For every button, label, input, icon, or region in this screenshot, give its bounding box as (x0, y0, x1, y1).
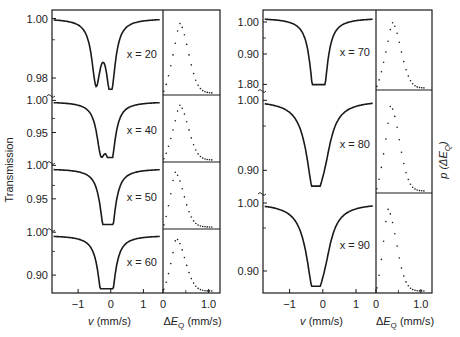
y-tick-label: 1.00 (238, 197, 259, 209)
distribution-point (387, 209, 389, 211)
distribution-point (414, 188, 416, 190)
y-tick-label: 0.95 (27, 193, 48, 205)
mossbauer-figure: 1.000.98x = 201.000.95x = 401.000.95x = … (0, 0, 460, 337)
distribution-point (186, 44, 188, 46)
distribution-point (390, 29, 392, 31)
distribution-point (191, 64, 193, 66)
distribution-point (381, 167, 383, 169)
distribution-point (200, 88, 202, 90)
distribution-point (188, 211, 190, 213)
distribution-point (399, 257, 401, 259)
distribution-point (186, 265, 188, 267)
x-tick-label: 1.0 (201, 298, 216, 310)
distribution-point (186, 204, 188, 206)
distribution-point (410, 183, 412, 185)
distribution-point (179, 105, 181, 107)
distribution-point (419, 87, 421, 89)
distribution-point (193, 282, 195, 284)
y-tick-label: 0.90 (27, 269, 48, 281)
distribution-point (396, 245, 398, 247)
composition-label: x = 80 (340, 138, 370, 150)
y-tick-label: 1.00 (27, 226, 48, 238)
distribution-point (168, 146, 170, 148)
distribution-point (170, 263, 172, 265)
distribution-point (399, 139, 401, 141)
axis-break-icon (258, 90, 266, 93)
distribution-point (419, 190, 421, 192)
distribution-point (421, 190, 423, 192)
distribution-point (405, 69, 407, 71)
distribution-point (378, 179, 380, 181)
distribution-point (184, 196, 186, 198)
axis-break-icon (47, 162, 55, 165)
distribution-point (168, 75, 170, 77)
distribution-point (165, 84, 167, 86)
distribution-point (423, 87, 425, 89)
distribution-point (421, 87, 423, 89)
distribution-point (412, 187, 414, 189)
distribution-point (405, 172, 407, 174)
y-axis-label-transmission: Transmission (3, 138, 15, 203)
distribution-point (412, 83, 414, 85)
distribution-point (408, 285, 410, 287)
distribution-point (403, 275, 405, 277)
distribution-point (175, 43, 177, 45)
y-tick-label: 1.00 (238, 16, 259, 28)
distribution-point (394, 233, 396, 235)
distribution-point (177, 239, 179, 241)
y-tick-label: 0.90 (238, 48, 259, 60)
distribution-point (202, 90, 204, 92)
axis-break-icon (47, 95, 55, 98)
distribution-point (383, 62, 385, 64)
distribution-point (175, 240, 177, 242)
distribution-point (204, 290, 206, 292)
distribution-point (383, 153, 385, 155)
x-tick-label: 0 (373, 298, 379, 310)
distribution-point (181, 108, 183, 110)
composition-label: x = 50 (127, 191, 157, 203)
distribution-point (392, 108, 394, 110)
axis-break-icon (258, 193, 266, 196)
y-tick-label: 1.00 (27, 159, 48, 171)
distribution-point (197, 224, 199, 226)
distribution-point (396, 126, 398, 128)
distribution-point (193, 220, 195, 222)
distribution-point (200, 156, 202, 158)
distribution-point (399, 41, 401, 43)
distribution-point (188, 54, 190, 56)
distribution-point (197, 85, 199, 87)
distribution-point (191, 216, 193, 218)
y-tick-label: 1.00 (27, 94, 48, 106)
distribution-point (206, 92, 208, 94)
distribution-point (209, 159, 211, 161)
distribution-point (390, 213, 392, 215)
distribution-point (209, 226, 211, 228)
distribution-point (383, 241, 385, 243)
distribution-point (387, 123, 389, 125)
distribution-point (204, 158, 206, 160)
distribution-point (412, 289, 414, 291)
distribution-point (394, 26, 396, 28)
distribution-point (416, 86, 418, 88)
distribution-point (408, 179, 410, 181)
distribution-point (211, 92, 213, 94)
distribution-point (184, 113, 186, 115)
distribution-point (403, 61, 405, 63)
distribution-point (172, 252, 174, 254)
distribution-point (179, 243, 181, 245)
distribution-point (202, 157, 204, 159)
distribution-point (200, 225, 202, 227)
distribution-point (414, 290, 416, 292)
x-tick-label: −1 (283, 298, 296, 310)
distribution-point (184, 34, 186, 36)
distribution-point (392, 22, 394, 24)
distribution-point (191, 278, 193, 280)
distribution-point (179, 180, 181, 182)
distribution-point (186, 121, 188, 123)
composition-label: x = 40 (127, 124, 157, 136)
distribution-point (181, 27, 183, 29)
distribution-point (168, 273, 170, 275)
distribution-point (188, 129, 190, 131)
distribution-point (401, 51, 403, 53)
distribution-point (211, 159, 213, 161)
